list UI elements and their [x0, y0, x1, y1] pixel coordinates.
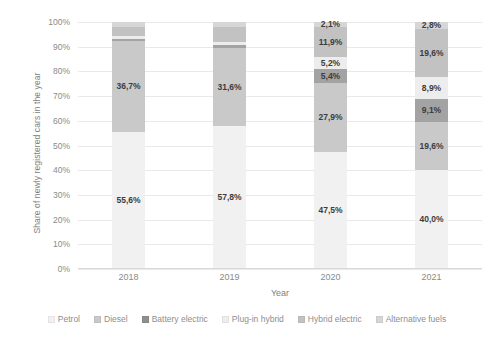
x-axis-tick-label: 2019 — [219, 272, 239, 282]
bar-stack: 57,8%31,6% — [213, 22, 246, 269]
x-axis-tick-labels: 2018201920202021 — [78, 272, 482, 288]
bar-segment-label: 55,6% — [116, 196, 140, 205]
legend-swatch-icon — [48, 316, 55, 323]
legend-swatch-icon — [376, 316, 383, 323]
bar-segment[interactable] — [112, 36, 145, 38]
bar-segment-label: 5,4% — [321, 72, 340, 81]
y-axis-tick-label: 40% — [53, 165, 70, 175]
legend-item-label: Hybrid electric — [308, 314, 362, 324]
legend-item[interactable]: Petrol — [48, 314, 80, 324]
bar-stack: 55,6%36,7% — [112, 22, 145, 269]
bar-segment[interactable]: 19,6% — [415, 122, 448, 170]
legend-swatch-icon — [298, 316, 305, 323]
x-axis-tick-label: 2021 — [421, 272, 441, 282]
bar-segment-label: 57,8% — [217, 193, 241, 202]
y-axis-tick-label: 0% — [58, 264, 70, 274]
bar-segment-label: 9,1% — [422, 106, 441, 115]
bar-segment[interactable]: 27,9% — [314, 83, 347, 152]
legend-swatch-icon — [142, 316, 149, 323]
bar-segment-label: 47,5% — [318, 206, 342, 215]
legend-item[interactable]: Plug-in hybrid — [222, 314, 284, 324]
bar-segment[interactable] — [112, 27, 145, 36]
bar-segment[interactable] — [112, 22, 145, 27]
legend-item[interactable]: Alternative fuels — [376, 314, 446, 324]
x-axis-tick-label: 2020 — [320, 272, 340, 282]
bar-segment-label: 2,1% — [321, 20, 340, 29]
bar-segment[interactable]: 5,4% — [314, 69, 347, 82]
bar-segment-label: 11,9% — [319, 38, 343, 47]
bar-segment[interactable]: 8,9% — [415, 77, 448, 99]
bar-segment-label: 40,0% — [419, 215, 443, 224]
bar-segment-label: 27,9% — [318, 113, 342, 122]
y-axis-tick-label: 10% — [53, 239, 70, 249]
y-axis-tick-label: 70% — [53, 91, 70, 101]
bar-segment[interactable]: 9,1% — [415, 99, 448, 121]
bar-segment[interactable]: 36,7% — [112, 41, 145, 132]
chart-legend: PetrolDieselBattery electricPlug-in hybr… — [0, 314, 494, 324]
legend-swatch-icon — [94, 316, 101, 323]
legend-swatch-icon — [222, 316, 229, 323]
y-axis-tick-labels: 0%10%20%30%40%50%60%70%80%90%100% — [38, 22, 74, 269]
bar-segment[interactable] — [213, 45, 246, 48]
bar-stack: 40,0%19,6%9,1%8,9%19,6%2,8% — [415, 22, 448, 269]
bar-segment-label: 19,6% — [419, 142, 443, 151]
y-axis-tick-label: 90% — [53, 42, 70, 52]
legend-item[interactable]: Diesel — [94, 314, 128, 324]
bar-segment[interactable]: 40,0% — [415, 170, 448, 269]
bar-segment-label: 8,9% — [422, 84, 441, 93]
legend-item-label: Diesel — [104, 314, 128, 324]
bars-layer: 55,6%36,7%57,8%31,6%47,5%27,9%5,4%5,2%11… — [78, 22, 482, 269]
bar-segment[interactable] — [213, 22, 246, 27]
legend-item-label: Petrol — [58, 314, 80, 324]
bar-segment[interactable] — [112, 39, 145, 41]
legend-item-label: Alternative fuels — [386, 314, 446, 324]
bar-segment[interactable]: 2,1% — [314, 22, 347, 27]
bar-segment[interactable]: 19,6% — [415, 29, 448, 77]
bar-segment-label: 36,7% — [116, 82, 140, 91]
legend-item-label: Battery electric — [152, 314, 208, 324]
bar-segment[interactable]: 2,8% — [415, 22, 448, 29]
y-axis-tick-label: 20% — [53, 215, 70, 225]
bar-column[interactable]: 57,8%31,6% — [213, 22, 246, 269]
bar-segment[interactable] — [213, 42, 246, 45]
bar-segment[interactable]: 55,6% — [112, 132, 145, 269]
y-axis-tick-label: 30% — [53, 190, 70, 200]
bar-segment-label: 19,6% — [419, 49, 443, 58]
y-axis-tick-label: 100% — [48, 17, 70, 27]
bar-segment-label: 2,8% — [422, 21, 441, 30]
bar-column[interactable]: 47,5%27,9%5,4%5,2%11,9%2,1% — [314, 22, 347, 269]
bar-stack: 47,5%27,9%5,4%5,2%11,9%2,1% — [314, 22, 347, 269]
y-axis-tick-label: 60% — [53, 116, 70, 126]
bar-segment[interactable]: 31,6% — [213, 48, 246, 126]
bar-segment[interactable]: 5,2% — [314, 57, 347, 70]
stacked-bar-chart: Share of newly registered cars in the ye… — [0, 0, 494, 338]
y-axis-tick-label: 50% — [53, 141, 70, 151]
legend-item[interactable]: Hybrid electric — [298, 314, 362, 324]
y-axis-tick-label: 80% — [53, 66, 70, 76]
bar-segment[interactable] — [213, 27, 246, 43]
plot-area: 55,6%36,7%57,8%31,6%47,5%27,9%5,4%5,2%11… — [78, 22, 482, 269]
x-axis-title: Year — [78, 288, 482, 298]
x-axis-tick-label: 2018 — [118, 272, 138, 282]
bar-segment-label: 5,2% — [321, 59, 340, 68]
bar-column[interactable]: 40,0%19,6%9,1%8,9%19,6%2,8% — [415, 22, 448, 269]
gridline — [78, 269, 482, 270]
x-axis-line — [78, 268, 482, 269]
bar-segment[interactable]: 57,8% — [213, 126, 246, 269]
bar-column[interactable]: 55,6%36,7% — [112, 22, 145, 269]
legend-item[interactable]: Battery electric — [142, 314, 208, 324]
bar-segment-label: 31,6% — [217, 83, 241, 92]
legend-item-label: Plug-in hybrid — [232, 314, 284, 324]
bar-segment[interactable]: 47,5% — [314, 152, 347, 269]
bar-segment[interactable]: 11,9% — [314, 27, 347, 56]
